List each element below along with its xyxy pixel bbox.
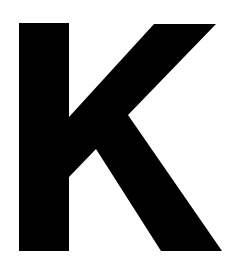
letter-k-graphic: K <box>0 0 238 263</box>
letter-k-icon <box>0 0 238 263</box>
